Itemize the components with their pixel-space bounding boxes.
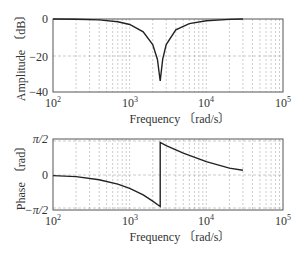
phase-xlabel: Frequency 〔rad/s〕 bbox=[130, 230, 231, 244]
phase-ytick-1: 0 bbox=[42, 168, 48, 182]
phase-xtick-3: 105 bbox=[275, 213, 291, 228]
phase-xtick-0: 102 bbox=[45, 213, 61, 228]
amp-xtick-3: 105 bbox=[275, 95, 291, 110]
amp-ytick-0: 0 bbox=[42, 12, 48, 26]
amp-ylabel: Amplitude 〔dB〕 bbox=[14, 9, 28, 101]
amp-xtick-2: 104 bbox=[198, 95, 214, 110]
amplitude-plot-frame bbox=[53, 19, 283, 92]
phase-ytick-0: π/2 bbox=[33, 132, 48, 146]
svg-text:104: 104 bbox=[198, 213, 214, 228]
svg-text:105: 105 bbox=[275, 95, 291, 110]
svg-text:104: 104 bbox=[198, 95, 214, 110]
amplitude-curve bbox=[53, 19, 243, 81]
svg-text:105: 105 bbox=[275, 213, 291, 228]
svg-text:102: 102 bbox=[45, 213, 61, 228]
bode-plot: 0 −20 −40 102 103 104 105 Frequency 〔rad… bbox=[0, 0, 302, 255]
svg-text:102: 102 bbox=[45, 95, 61, 110]
phase-xtick-2: 104 bbox=[198, 213, 214, 228]
svg-text:103: 103 bbox=[122, 213, 138, 228]
amplitude-grid bbox=[53, 19, 283, 92]
phase-grid bbox=[53, 139, 283, 210]
phase-ylabel: Phase 〔rad〕 bbox=[14, 140, 28, 210]
amp-xtick-1: 103 bbox=[122, 95, 138, 110]
amp-ytick-1: −20 bbox=[29, 50, 48, 64]
svg-text:103: 103 bbox=[122, 95, 138, 110]
phase-curve bbox=[53, 143, 243, 207]
amp-xlabel: Frequency 〔rad/s〕 bbox=[130, 112, 231, 126]
amp-xtick-0: 102 bbox=[45, 95, 61, 110]
phase-xtick-1: 103 bbox=[122, 213, 138, 228]
phase-plot-frame bbox=[53, 139, 283, 210]
